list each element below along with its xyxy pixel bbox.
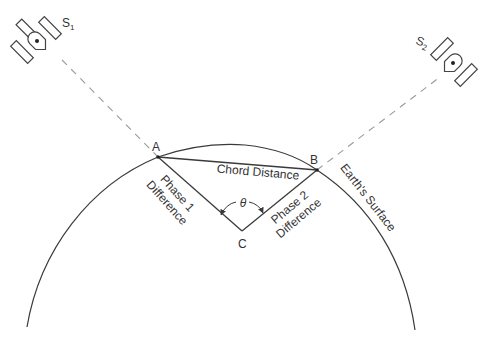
chord-distance-label: Chord Distance bbox=[216, 161, 300, 182]
point-c-label: C bbox=[238, 237, 247, 251]
line-of-sight-s2 bbox=[317, 77, 440, 170]
earth-surface-label: Earth's Surface bbox=[337, 161, 399, 234]
satellite-s1-icon bbox=[11, 17, 62, 64]
chord-distance-diagram: S1 S2 A B C Chord Distance Phase 1 Diffe… bbox=[0, 0, 491, 343]
angle-theta-label: θ bbox=[240, 196, 247, 210]
point-b-dot bbox=[315, 168, 319, 172]
satellite-s1-label: S1 bbox=[62, 16, 75, 32]
point-b-label: B bbox=[310, 153, 318, 167]
point-a-dot bbox=[156, 155, 160, 159]
satellite-s2-icon bbox=[431, 38, 478, 87]
satellite-s2-label: S2 bbox=[413, 33, 431, 52]
line-of-sight-s1 bbox=[62, 60, 158, 157]
point-a-label: A bbox=[152, 140, 160, 154]
